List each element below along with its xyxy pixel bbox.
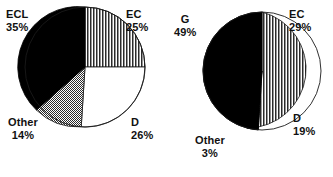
pie-left-label-other-name: Other [8,116,38,129]
pie-right-label-ec-pct: 29% [289,21,311,34]
pie-left-label-d-pct: 26% [131,129,153,142]
pie-left-label-other-pct: 14% [8,129,38,142]
pie-left-label-ec-name: EC [126,8,148,21]
pie-right-label-ec-name: EC [289,8,311,21]
pie-left-label-d: D 26% [131,116,153,142]
pie-right-label-d-pct: 19% [293,125,315,138]
pie-chart-panel-left: ECL 35% EC 25% Other 14% D 26% [0,0,166,177]
pie-chart-figure: ECL 35% EC 25% Other 14% D 26% [0,0,333,177]
pie-right-label-g: G 49% [174,13,196,39]
pie-left-label-ec-pct: 25% [126,21,148,34]
pie-left-label-ecl: ECL 35% [6,8,28,34]
pie-right-label-d: D 19% [293,112,315,138]
pie-chart-panel-right: G 49% EC 29% Other 3% D 19% [167,0,333,177]
pie-right-slice-g [203,12,262,130]
pie-left-label-ecl-pct: 35% [6,21,28,34]
pie-right-label-other-pct: 3% [195,147,225,160]
pie-right-label-ec: EC 29% [289,8,311,34]
pie-right-label-d-name: D [293,112,315,125]
pie-right-label-other-name: Other [195,134,225,147]
pie-left-label-ecl-name: ECL [6,8,28,21]
pie-right-label-g-name: G [174,13,196,26]
pie-right-label-g-pct: 49% [174,26,196,39]
pie-left-label-ec: EC 25% [126,8,148,34]
pie-right-label-other: Other 3% [195,134,225,160]
pie-left-label-other: Other 14% [8,116,38,142]
pie-left-label-d-name: D [131,116,153,129]
